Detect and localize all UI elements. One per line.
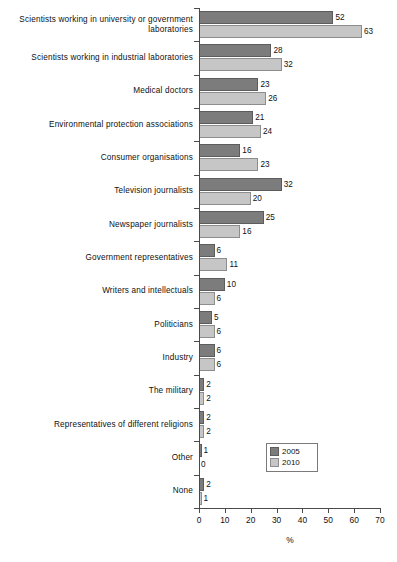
y-axis-tick <box>194 241 199 242</box>
bar-group-row: 52 <box>199 11 345 24</box>
bar-value-label: 10 <box>227 278 236 291</box>
x-axis-tick-label: 10 <box>220 515 229 525</box>
bar-value-label: 16 <box>242 225 251 238</box>
bar-value-label: 26 <box>268 92 277 105</box>
legend-item-2005: 2005 <box>270 446 314 457</box>
bar-group-row: 24 <box>199 125 272 138</box>
bar-group-row: 6 <box>199 325 221 338</box>
bar-value-label: 6 <box>217 358 222 371</box>
category-label: Newspaper journalists <box>0 208 193 241</box>
bar-value-label: 0 <box>201 458 206 471</box>
bar-value-label: 63 <box>364 25 373 38</box>
bar-2010 <box>199 92 266 105</box>
bar-value-label: 1 <box>204 444 209 457</box>
bar-group-row: 2 <box>199 378 211 391</box>
bar-value-label: 2 <box>206 478 211 491</box>
y-axis-tick <box>194 341 199 342</box>
legend-label-2010: 2010 <box>282 457 300 468</box>
bar-value-label: 5 <box>214 311 219 324</box>
bar-2010 <box>199 192 251 205</box>
bar-chart: Scientists working in university or gove… <box>0 0 397 562</box>
y-axis-tick <box>194 375 199 376</box>
x-axis-tick <box>328 508 329 513</box>
bar-value-label: 21 <box>255 111 264 124</box>
bar-2010 <box>199 225 240 238</box>
y-axis-tick <box>194 408 199 409</box>
bar-2010 <box>199 358 215 371</box>
x-axis-tick-label: 20 <box>246 515 255 525</box>
category-label: Other <box>0 441 193 474</box>
bar-2005 <box>199 78 258 91</box>
bar-2010 <box>199 158 258 171</box>
x-axis-tick <box>354 508 355 513</box>
category-label: Industry <box>0 341 193 374</box>
bar-group-row: 63 <box>199 25 373 38</box>
bar-2005 <box>199 311 212 324</box>
bar-value-label: 2 <box>206 425 211 438</box>
category-label-column: Scientists working in university or gove… <box>0 8 195 508</box>
bar-group-row: 26 <box>199 92 277 105</box>
x-axis-tick-label: 70 <box>375 515 384 525</box>
bar-group-row: 2 <box>199 478 211 491</box>
bar-group-row: 6 <box>199 292 221 305</box>
bar-value-label: 1 <box>204 492 209 505</box>
category-label: Environmental protection associations <box>0 108 193 141</box>
bar-2005 <box>199 11 333 24</box>
bar-group-row: 6 <box>199 358 221 371</box>
y-axis-tick <box>194 41 199 42</box>
category-label: Television journalists <box>0 175 193 208</box>
category-label: Scientists working in industrial laborat… <box>0 41 193 74</box>
x-axis-tick <box>277 508 278 513</box>
category-label: Consumer organisations <box>0 141 193 174</box>
y-axis-tick <box>194 108 199 109</box>
x-axis-tick <box>302 508 303 513</box>
y-axis-tick <box>194 308 199 309</box>
bar-value-label: 6 <box>217 325 222 338</box>
x-axis-tick <box>380 508 381 513</box>
y-axis-line <box>199 8 200 508</box>
bar-value-label: 2 <box>206 378 211 391</box>
legend-item-2010: 2010 <box>270 457 314 468</box>
plot-area: 5263283223262124162332202516611106566622… <box>199 8 380 508</box>
category-label: Politicians <box>0 308 193 341</box>
y-axis-tick <box>194 208 199 209</box>
x-axis-tick <box>251 508 252 513</box>
bar-2005 <box>199 178 282 191</box>
x-axis-tick-label: 60 <box>349 515 358 525</box>
bar-value-label: 11 <box>229 258 238 271</box>
bar-value-label: 6 <box>217 244 222 257</box>
category-label: Writers and intellectuals <box>0 275 193 308</box>
bar-value-label: 32 <box>284 58 293 71</box>
bar-group-row: 2 <box>199 425 211 438</box>
bar-group-row: 10 <box>199 278 236 291</box>
legend-swatch-2010 <box>270 458 279 467</box>
y-axis-tick <box>194 8 199 9</box>
x-axis-tick-label: 0 <box>197 515 202 525</box>
bar-2005 <box>199 344 215 357</box>
bar-group-row: 2 <box>199 392 211 405</box>
y-axis-tick <box>194 475 199 476</box>
bar-value-label: 23 <box>260 78 269 91</box>
bar-2005 <box>199 244 215 257</box>
category-label: Representatives of different religions <box>0 408 193 441</box>
x-axis-tick-label: 50 <box>324 515 333 525</box>
bar-group-row: 1 <box>199 492 208 505</box>
bar-value-label: 28 <box>273 44 282 57</box>
x-axis-tick <box>199 508 200 513</box>
y-axis-tick <box>194 141 199 142</box>
x-axis-title: % <box>199 535 381 545</box>
bar-2010 <box>199 325 215 338</box>
category-label: None <box>0 475 193 508</box>
bar-2010 <box>199 25 362 38</box>
bar-value-label: 6 <box>217 344 222 357</box>
bar-group-row: 32 <box>199 58 293 71</box>
bar-group-row: 16 <box>199 225 251 238</box>
x-axis-tick <box>225 508 226 513</box>
y-axis-tick <box>194 175 199 176</box>
bar-2010 <box>199 125 261 138</box>
x-axis-tick-label: 40 <box>298 515 307 525</box>
bar-2010 <box>199 258 227 271</box>
bar-value-label: 20 <box>253 192 262 205</box>
bar-group-row: 32 <box>199 178 293 191</box>
bar-group-row: 21 <box>199 111 264 124</box>
